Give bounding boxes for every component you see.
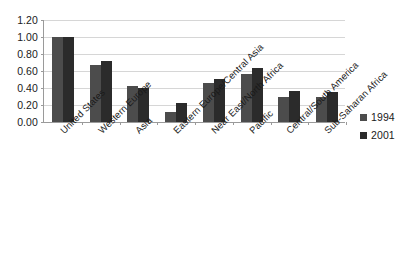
bar-group bbox=[52, 20, 74, 122]
y-axis-tick-label: 0.40 bbox=[0, 83, 38, 93]
bar-1994 bbox=[278, 97, 289, 123]
legend-label: 2001 bbox=[371, 130, 395, 141]
legend-swatch-icon bbox=[360, 114, 367, 121]
bar-1994 bbox=[165, 112, 176, 122]
bar-group bbox=[278, 20, 300, 122]
bar-2001 bbox=[63, 37, 74, 122]
y-axis: 0.000.200.400.600.801.001.20 bbox=[0, 0, 38, 255]
legend-item: 1994 bbox=[360, 108, 420, 126]
legend-item: 2001 bbox=[360, 126, 420, 144]
y-axis-tick-label: 0.20 bbox=[0, 100, 38, 110]
chart-legend: 19942001 bbox=[360, 108, 420, 144]
bar-chart: 0.000.200.400.600.801.001.20 United Stat… bbox=[0, 0, 420, 255]
y-axis-tick-label: 0.60 bbox=[0, 66, 38, 76]
y-axis-tick-label: 0.80 bbox=[0, 49, 38, 59]
y-axis-tick-label: 1.20 bbox=[0, 15, 38, 25]
x-axis-tickmark bbox=[346, 122, 347, 125]
y-axis-tick-label: 0.00 bbox=[0, 117, 38, 127]
x-axis-category-labels: United StatesWestern EuropeAsiaEastern E… bbox=[43, 122, 345, 255]
y-axis-tick-label: 1.00 bbox=[0, 32, 38, 42]
bar-group bbox=[165, 20, 187, 122]
bar-1994 bbox=[52, 37, 63, 122]
legend-swatch-icon bbox=[360, 132, 367, 139]
legend-label: 1994 bbox=[371, 112, 395, 123]
